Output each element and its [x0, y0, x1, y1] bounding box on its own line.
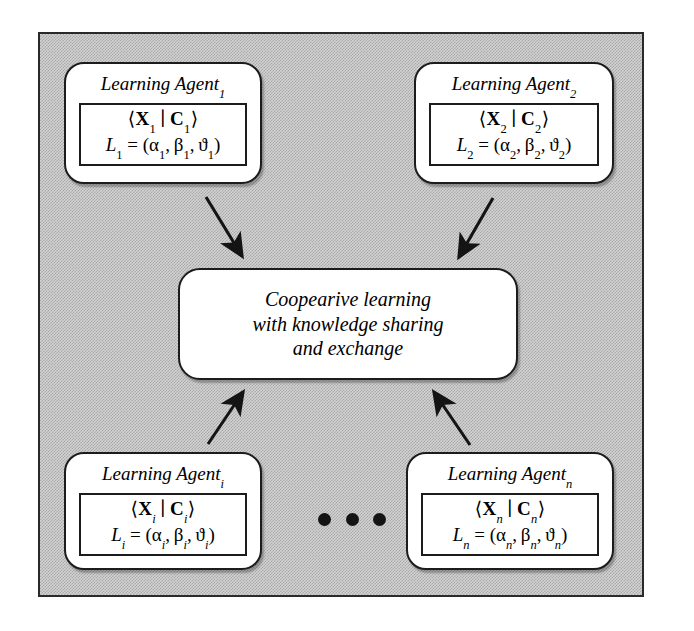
agent-i-tuple-c-sub: i [184, 512, 188, 526]
agent-2-tuple-x-sub: 2 [500, 122, 507, 136]
agent-n-tuple-x: X [482, 498, 496, 519]
agent-1-tuple-c-sub: 1 [184, 122, 191, 136]
agent-i-alpha: α [152, 524, 162, 545]
agent-n-params-label: L [453, 524, 464, 545]
agent-1-params: L1 = (α1, β1, ϑ1) [81, 134, 245, 159]
agent-1-params-label: L [106, 134, 117, 155]
agent-1-formula-box: ⟨X1 ∣ C1⟩ L1 = (α1, β1, ϑ1) [79, 103, 247, 166]
agent-i-params-sub: i [122, 538, 125, 552]
agent-i-alpha-sub: i [162, 538, 165, 552]
agent-i-theta-sub: i [205, 538, 208, 552]
tuple-bar-icon: ∣ [511, 108, 517, 129]
agent-n-alpha-sub: n [506, 538, 512, 552]
agent-2-alpha: α [500, 134, 510, 155]
agent-2-theta-sub: 2 [559, 148, 565, 162]
tuple-bar-icon: ∣ [160, 498, 166, 519]
agent-1-alpha-sub: 1 [159, 148, 165, 162]
agent-1-theta-sub: 1 [208, 148, 214, 162]
agent-n-params: Ln = (αn, βn, ϑn) [423, 524, 597, 549]
agent-1-title-text: Learning Agent [101, 73, 219, 94]
agent-i-tuple: ⟨Xi ∣ Ci⟩ [81, 498, 245, 523]
agent-2-tuple: ⟨X2 ∣ C2⟩ [431, 108, 597, 133]
agent-2-params-sub: 2 [467, 148, 473, 162]
agent-2-tuple-c: C [521, 108, 535, 129]
ellipsis-dot-2 [346, 513, 359, 526]
agent-n-theta: ϑ [545, 524, 554, 545]
cooperative-learning-box[interactable]: Coopearive learning with knowledge shari… [178, 268, 518, 380]
agent-n-tuple-x-sub: n [496, 512, 503, 526]
diagram-canvas: Learning Agent1 ⟨X1 ∣ C1⟩ L1 = (α1, β1, … [0, 0, 694, 631]
angle-close-icon: ⟩ [538, 498, 546, 519]
agent-box-2[interactable]: Learning Agent2 ⟨X2 ∣ C2⟩ L2 = (α2, β2, … [414, 62, 614, 184]
agent-2-beta: β [525, 134, 535, 155]
agent-n-tuple-c-sub: n [531, 512, 538, 526]
agent-1-tuple: ⟨X1 ∣ C1⟩ [81, 108, 245, 133]
agent-2-beta-sub: 2 [535, 148, 541, 162]
agent-i-title-text: Learning Agent [102, 463, 220, 484]
agent-1-tuple-x: X [135, 108, 149, 129]
agent-i-params: Li = (αi, βi, ϑi) [81, 524, 245, 549]
agent-n-tuple: ⟨Xn ∣ Cn⟩ [423, 498, 597, 523]
ellipsis-dot-3 [373, 513, 386, 526]
agent-i-theta: ϑ [196, 524, 205, 545]
agent-n-alpha: α [496, 524, 506, 545]
agent-n-beta-sub: n [531, 538, 537, 552]
agent-1-alpha: α [149, 134, 159, 155]
agent-n-title-subscript: n [566, 477, 572, 491]
agent-1-theta: ϑ [198, 134, 207, 155]
agent-2-title-subscript: 2 [570, 87, 576, 101]
agent-i-formula-box: ⟨Xi ∣ Ci⟩ Li = (αi, βi, ϑi) [79, 493, 247, 556]
agent-2-formula-box: ⟨X2 ∣ C2⟩ L2 = (α2, β2, ϑ2) [429, 103, 599, 166]
agent-n-beta: β [521, 524, 531, 545]
agent-n-tuple-c: C [517, 498, 531, 519]
agent-2-title: Learning Agent2 [452, 74, 577, 97]
ellipsis-dots [318, 511, 386, 527]
agent-2-alpha-sub: 2 [510, 148, 516, 162]
tuple-bar-icon: ∣ [160, 108, 166, 129]
agent-1-beta-sub: 1 [184, 148, 190, 162]
ellipsis-dot-1 [318, 513, 331, 526]
angle-open-icon: ⟨ [130, 498, 138, 519]
agent-1-beta: β [174, 134, 184, 155]
agent-1-tuple-x-sub: 1 [149, 122, 156, 136]
agent-i-title-subscript: i [220, 477, 223, 491]
angle-close-icon: ⟩ [542, 108, 550, 129]
agent-i-title: Learning Agenti [102, 464, 224, 487]
agent-1-title-subscript: 1 [219, 87, 225, 101]
agent-i-tuple-x-sub: i [152, 512, 156, 526]
tuple-bar-icon: ∣ [507, 498, 513, 519]
agent-n-formula-box: ⟨Xn ∣ Cn⟩ Ln = (αn, βn, ϑn) [421, 493, 599, 556]
cooperative-learning-line-3: and exchange [293, 336, 404, 360]
agent-1-tuple-c: C [170, 108, 184, 129]
agent-n-title-text: Learning Agent [448, 463, 566, 484]
cooperative-learning-line-1: Coopearive learning [265, 287, 431, 311]
agent-i-params-label: L [111, 524, 122, 545]
agent-box-1[interactable]: Learning Agent1 ⟨X1 ∣ C1⟩ L1 = (α1, β1, … [64, 62, 262, 184]
agent-box-i[interactable]: Learning Agenti ⟨Xi ∣ Ci⟩ Li = (αi, βi, … [64, 452, 262, 570]
agent-2-tuple-x: X [486, 108, 500, 129]
agent-i-beta-sub: i [184, 538, 187, 552]
agent-n-theta-sub: n [555, 538, 561, 552]
angle-close-icon: ⟩ [191, 108, 199, 129]
angle-close-icon: ⟩ [188, 498, 196, 519]
agent-2-title-text: Learning Agent [452, 73, 570, 94]
agent-2-params: L2 = (α2, β2, ϑ2) [431, 134, 597, 159]
agent-2-tuple-c-sub: 2 [535, 122, 542, 136]
agent-1-title: Learning Agent1 [101, 74, 226, 97]
cooperative-learning-line-2: with knowledge sharing [252, 312, 443, 336]
agent-i-tuple-x: X [138, 498, 152, 519]
agent-1-params-sub: 1 [116, 148, 122, 162]
agent-n-title: Learning Agentn [448, 464, 573, 487]
agent-i-beta: β [174, 524, 184, 545]
agent-box-n[interactable]: Learning Agentn ⟨Xn ∣ Cn⟩ Ln = (αn, βn, … [406, 452, 614, 570]
agent-2-params-label: L [457, 134, 468, 155]
agent-i-tuple-c: C [170, 498, 184, 519]
agent-n-params-sub: n [463, 538, 469, 552]
agent-2-theta: ϑ [549, 134, 558, 155]
